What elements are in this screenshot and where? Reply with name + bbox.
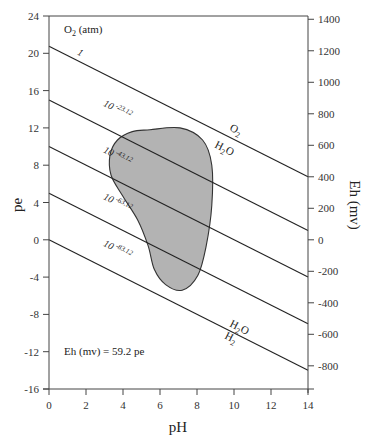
x-tick-label: 4 — [120, 399, 126, 411]
eh-pe-equation-note: Eh (mv) = 59.2 pe — [64, 345, 145, 358]
x-axis-title: pH — [169, 419, 188, 435]
y2-tick-label: 1000 — [318, 76, 341, 88]
y-tick-label: -8 — [30, 308, 40, 320]
x-tick-label: 0 — [46, 399, 52, 411]
y2-tick-label: 0 — [318, 234, 324, 246]
y-axis-title: pe — [9, 198, 25, 213]
y-tick-label: -4 — [30, 271, 40, 283]
svg-text:H2O: H2O — [212, 138, 237, 160]
svg-text:1: 1 — [76, 46, 85, 58]
o2-line-label-1: 10-23.12 — [102, 97, 135, 122]
y-tick-label: -16 — [24, 383, 39, 395]
y2-tick-label: -800 — [318, 360, 339, 372]
y-tick-label: 24 — [28, 10, 40, 22]
x-tick-label: 12 — [266, 399, 277, 411]
y-tick-label: 12 — [28, 122, 39, 134]
h2o-upper-boundary-label: H2O — [212, 138, 237, 160]
x-tick-label: 10 — [229, 399, 241, 411]
y2-tick-label: -200 — [318, 265, 339, 277]
y2-tick-label: -600 — [318, 328, 339, 340]
y2-tick-label: 1200 — [318, 45, 341, 57]
svg-text:10-23.12: 10-23.12 — [102, 97, 135, 122]
x-tick-label: 14 — [303, 399, 315, 411]
pe-ph-diagram: 110-23.1210-43.1210-63.1210-83.12 242016… — [0, 0, 365, 439]
o2-line-label-4: 10-83.12 — [102, 236, 135, 261]
x-tick-label: 6 — [157, 399, 163, 411]
y2-tick-label: 200 — [318, 202, 335, 214]
svg-text:10-83.12: 10-83.12 — [102, 236, 135, 261]
y2-tick-label: 800 — [318, 108, 335, 120]
y-tick-label: 16 — [28, 85, 40, 97]
y-tick-label: 20 — [28, 47, 40, 59]
y2-tick-label: 600 — [318, 139, 335, 151]
x-tick-label: 8 — [194, 399, 200, 411]
y-tick-label: 8 — [34, 159, 40, 171]
o2-line-label-0: 1 — [76, 46, 85, 58]
y2-axis-title: Eh (mv) — [346, 180, 363, 230]
y-tick-label: -12 — [24, 346, 39, 358]
y2-tick-label: 400 — [318, 171, 335, 183]
y-tick-label: 4 — [34, 197, 40, 209]
y2-tick-label: -400 — [318, 297, 339, 309]
y2-tick-label: 1400 — [318, 13, 341, 25]
y-tick-label: 0 — [34, 234, 40, 246]
o2-atm-header: O2 (atm) — [64, 23, 103, 38]
x-tick-label: 2 — [83, 399, 89, 411]
